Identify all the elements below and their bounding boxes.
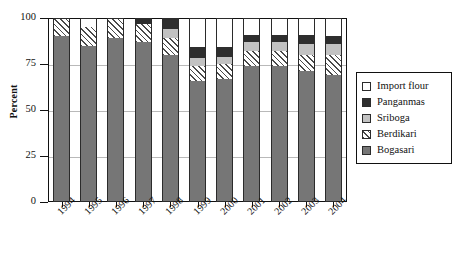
bar-segment-berdikari (325, 55, 342, 75)
bar-segment-bogasari (80, 46, 97, 202)
bar-segment-sriboga (298, 44, 315, 55)
legend-label: Import flour (377, 81, 429, 92)
bar-segment-berdikari (135, 24, 152, 42)
legend-label: Bogasari (377, 145, 414, 156)
bar-segment-panganmas (189, 47, 206, 58)
bar-segment-bogasari (107, 38, 124, 202)
bar-segment-berdikari (298, 55, 315, 72)
bar-segment-import-flour (325, 18, 342, 36)
bar-segment-panganmas (135, 18, 152, 24)
y-tick-label: 0 (0, 195, 36, 206)
legend-item-bogasari[interactable]: Bogasari (362, 142, 447, 158)
bar-segment-bogasari (216, 79, 233, 202)
legend-label: Berdikari (377, 129, 417, 140)
bar-segment-berdikari (107, 18, 124, 38)
bar-segment-berdikari (53, 18, 70, 36)
bar-segment-sriboga (243, 42, 260, 51)
legend-item-sriboga[interactable]: Sriboga (362, 110, 447, 126)
bar-segment-panganmas (162, 18, 179, 29)
bar-1998[interactable] (162, 18, 179, 202)
bar-segment-bogasari (298, 71, 315, 202)
bar-segment-berdikari (271, 51, 288, 66)
legend-item-berdikari[interactable]: Berdikari (362, 126, 447, 142)
bar-segment-berdikari (80, 27, 97, 45)
bar-segment-berdikari (162, 38, 179, 55)
bar-segment-sriboga (271, 42, 288, 51)
bar-1996[interactable] (107, 18, 124, 202)
bar-segment-bogasari (189, 81, 206, 202)
bar-segment-sriboga (216, 57, 233, 64)
chart-legend: Import flourPanganmasSribogaBerdikariBog… (356, 72, 452, 164)
legend-label: Panganmas (377, 97, 425, 108)
legend-swatch-bogasari-icon (362, 146, 371, 155)
legend-swatch-panganmas-icon (362, 98, 371, 107)
legend-item-import[interactable]: Import flour (362, 78, 447, 94)
bar-segment-sriboga (189, 58, 206, 65)
bar-segment-bogasari (135, 42, 152, 202)
bar-2002[interactable] (271, 18, 288, 202)
y-tick-label: 50 (0, 103, 36, 114)
legend-swatch-berdikari-icon (362, 130, 371, 139)
bar-segment-import-flour (216, 18, 233, 47)
y-tick-mark (40, 18, 48, 19)
bar-segment-bogasari (325, 75, 342, 202)
bar-segment-bogasari (243, 66, 260, 202)
bar-segment-bogasari (53, 36, 70, 202)
bar-segment-panganmas (325, 36, 342, 43)
y-tick-mark (40, 110, 48, 111)
bar-segment-bogasari (162, 55, 179, 202)
y-tick-label: 75 (0, 57, 36, 68)
bar-1997[interactable] (135, 18, 152, 202)
bar-2001[interactable] (243, 18, 260, 202)
bar-segment-panganmas (271, 35, 288, 42)
y-tick-mark (40, 202, 48, 203)
bar-1995[interactable] (80, 18, 97, 202)
bar-segment-berdikari (216, 64, 233, 79)
legend-swatch-import-icon (362, 82, 371, 91)
y-tick-mark (40, 156, 48, 157)
bar-segment-berdikari (189, 66, 206, 81)
bar-segment-import-flour (243, 18, 260, 35)
bar-segment-import-flour (298, 18, 315, 35)
bar-segment-berdikari (243, 51, 260, 66)
bar-segment-bogasari (271, 66, 288, 202)
y-tick-label: 25 (0, 149, 36, 160)
bars-layer (48, 18, 347, 202)
bar-segment-import-flour (189, 18, 206, 47)
stacked-bar-chart: Percent 0255075100 199419951996199719981… (0, 0, 458, 259)
bar-segment-sriboga (325, 44, 342, 55)
bar-segment-panganmas (298, 35, 315, 44)
bar-2004[interactable] (325, 18, 342, 202)
y-tick-label: 100 (0, 11, 36, 22)
bar-2000[interactable] (216, 18, 233, 202)
bar-segment-panganmas (216, 47, 233, 56)
bar-segment-sriboga (162, 29, 179, 38)
bar-2003[interactable] (298, 18, 315, 202)
legend-item-panganmas[interactable]: Panganmas (362, 94, 447, 110)
y-tick-mark (40, 64, 48, 65)
bar-segment-import-flour (80, 18, 97, 27)
bar-segment-import-flour (271, 18, 288, 35)
bar-1994[interactable] (53, 18, 70, 202)
bar-1999[interactable] (189, 18, 206, 202)
legend-label: Sriboga (377, 113, 410, 124)
legend-swatch-sriboga-icon (362, 114, 371, 123)
y-axis-title: Percent (8, 62, 19, 142)
bar-segment-panganmas (243, 35, 260, 42)
